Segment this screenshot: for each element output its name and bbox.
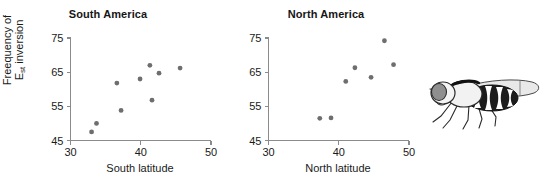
chart-panel-south-america: South America Freequency of Est inversio… [0,0,230,183]
drosophila-fly-icon [424,58,546,138]
scatter-point [329,116,334,121]
scatter-point [391,62,396,67]
scatter-point [353,65,358,70]
scatter-point [369,75,374,80]
axes-south [71,38,212,141]
axes-north [269,38,410,141]
y-tick-label: 45 [51,135,63,147]
y-axis-ticks-south: 45556575 [51,32,70,147]
y-tick-label: 55 [51,100,63,112]
data-points-north-america [317,38,396,120]
x-tick-label: 50 [205,146,217,158]
scatter-point [178,66,183,71]
y-tick-label: 45 [249,135,261,147]
chart-panel-north-america: North America 45556575 304050 North lati… [228,0,428,183]
plot-area-south-america: 45556575 304050 South latitude [0,0,230,183]
x-tick-label: 40 [333,146,345,158]
y-tick-label: 65 [51,66,63,78]
scatter-point [382,38,387,43]
x-tick-label: 40 [135,146,147,158]
scatter-point [317,116,322,121]
y-tick-label: 65 [249,66,261,78]
y-tick-label: 75 [249,32,261,44]
x-tick-label: 30 [64,146,76,158]
scatter-point [138,77,143,82]
x-axis-ticks-south: 304050 [64,141,217,158]
scatter-point [94,121,99,126]
scatter-point [114,81,119,86]
x-tick-label: 50 [403,146,415,158]
x-axis-ticks-north: 304050 [262,141,415,158]
plot-area-north-america: 45556575 304050 North latitude [228,0,428,183]
y-axis-ticks-north: 45556575 [249,32,268,147]
figure-container: South America Freequency of Est inversio… [0,0,546,183]
scatter-point [157,71,162,76]
x-axis-title-south: South latitude [106,162,173,174]
scatter-point [147,63,152,68]
fly-eye [432,84,447,101]
scatter-point [343,79,348,84]
scatter-point [150,98,155,103]
scatter-point [89,130,94,135]
y-tick-label: 75 [51,32,63,44]
fly-head [431,82,455,105]
y-tick-label: 55 [249,100,261,112]
data-points-south-america [89,63,182,134]
x-axis-title-north: North latitude [305,162,370,174]
x-tick-label: 30 [262,146,274,158]
scatter-point [119,108,124,113]
